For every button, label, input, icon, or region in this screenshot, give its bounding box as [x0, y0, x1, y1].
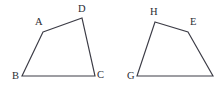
vertex-label-d: D: [78, 3, 86, 14]
vertex-label-c: C: [97, 69, 104, 80]
vertex-label-a: A: [35, 16, 43, 27]
vertex-label-h: H: [150, 6, 158, 17]
vertex-label-g: G: [127, 70, 135, 81]
geometry-canvas: A D C B H E G: [0, 0, 216, 90]
geometry-figure: A D C B H E G: [0, 0, 216, 90]
vertex-label-e: E: [190, 16, 196, 27]
vertex-label-b: B: [12, 70, 19, 81]
